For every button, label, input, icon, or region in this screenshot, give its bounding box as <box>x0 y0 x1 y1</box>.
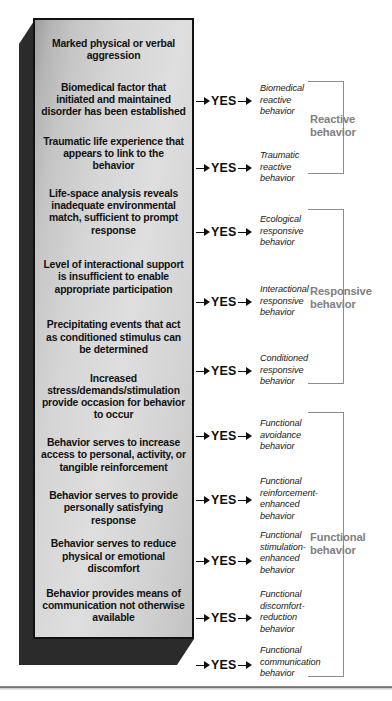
yes-label: YES <box>210 295 237 309</box>
arrow-right-icon <box>237 614 253 623</box>
decision-yes-ecological: YES <box>196 224 258 240</box>
criterion-interactional-support: Level of interactional support is insuff… <box>39 247 188 308</box>
arrow-right-icon <box>237 298 253 307</box>
arrow-right-icon <box>196 661 210 670</box>
arrow-right-icon <box>196 367 210 376</box>
arrow-right-icon <box>196 432 210 441</box>
arrow-right-icon <box>237 432 253 441</box>
criterion-traumatic-experience: Traumatic life experience that appears t… <box>39 130 188 177</box>
criteria-box: Marked physical or verbal aggressionBiom… <box>19 18 194 665</box>
criterion-increased-stress: Increased stress/demands/stimulation pro… <box>39 368 188 427</box>
arrow-right-icon <box>237 496 253 505</box>
decision-yes-biomedical: YES <box>196 93 258 109</box>
yes-label: YES <box>210 225 237 239</box>
yes-label: YES <box>210 364 237 378</box>
decision-yes-discomfort: YES <box>196 610 258 626</box>
yes-label: YES <box>210 161 237 175</box>
criteria-list: Marked physical or verbal aggressionBiom… <box>35 20 192 637</box>
diagram-canvas: Marked physical or verbal aggressionBiom… <box>0 0 392 701</box>
criterion-life-space-analysis: Life-space analysis reveals inadequate e… <box>39 178 188 247</box>
arrow-right-icon <box>237 228 253 237</box>
arrow-right-icon <box>196 496 210 505</box>
criterion-reduce-discomfort: Behavior serves to reduce physical or em… <box>39 533 188 581</box>
decision-yes-conditioned: YES <box>196 363 258 379</box>
box-face: Marked physical or verbal aggressionBiom… <box>33 18 194 639</box>
arrow-right-icon <box>196 228 210 237</box>
arrow-right-icon <box>196 164 210 173</box>
yes-label: YES <box>210 658 237 672</box>
arrow-right-icon <box>237 557 253 566</box>
arrow-right-icon <box>196 614 210 623</box>
arrow-right-icon <box>196 298 210 307</box>
criterion-increase-access: Behavior serves to increase access to pe… <box>39 426 188 484</box>
decision-yes-interactional: YES <box>196 294 258 310</box>
criterion-satisfying-response: Behavior serves to provide personally sa… <box>39 484 188 532</box>
group-label-functional: Functional behavior <box>310 531 366 556</box>
arrow-right-icon <box>237 661 253 670</box>
decision-yes-reinforcement: YES <box>196 492 258 508</box>
arrow-right-icon <box>196 97 210 106</box>
arrow-right-icon <box>196 557 210 566</box>
yes-label: YES <box>210 429 237 443</box>
group-label-responsive: Responsive behavior <box>310 285 372 310</box>
criterion-marked-aggression: Marked physical or verbal aggression <box>39 30 188 70</box>
yes-label: YES <box>210 554 237 568</box>
decision-yes-traumatic: YES <box>196 160 258 176</box>
decision-yes-stimulation: YES <box>196 553 258 569</box>
arrow-right-icon <box>237 367 253 376</box>
decision-yes-communication: YES <box>196 657 258 673</box>
decision-yes-avoidance: YES <box>196 428 258 444</box>
arrow-right-icon <box>237 164 253 173</box>
footer-rule <box>0 686 392 690</box>
criterion-precipitating-events: Precipitating events that act as conditi… <box>39 308 188 368</box>
criterion-means-of-communication: Behavior provides means of communication… <box>39 581 188 631</box>
yes-label: YES <box>210 611 237 625</box>
decision-column: YESYESYESYESYESYESYESYESYESYES <box>196 0 258 701</box>
group-label-reactive: Reactive behavior <box>310 113 356 138</box>
yes-label: YES <box>210 493 237 507</box>
arrow-right-icon <box>237 97 253 106</box>
group-bracket-column: Reactive behaviorResponsive behaviorFunc… <box>300 0 392 701</box>
criterion-biomedical-factor: Biomedical factor that initiated and mai… <box>39 70 188 131</box>
yes-label: YES <box>210 94 237 108</box>
